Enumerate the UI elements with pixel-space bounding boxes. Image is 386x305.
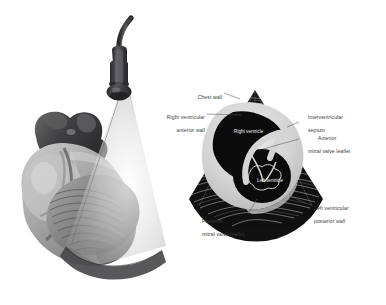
- label-left-ventricle: Left ventricle: [252, 173, 283, 189]
- echocardiography-figure: Chest wall Right ventricular anterior wa…: [0, 0, 386, 305]
- label-right-ventricle: Right ventricle: [229, 124, 263, 140]
- callout-posterior-mitral-valve-leaflet: Posterior mitral valve leaflet: [196, 212, 270, 243]
- callout-anterior-mitral-valve-leaflet: Anterior mitral valve leaflet: [302, 129, 376, 160]
- callout-left-ventricular-posterior-wall: Left ventricular posterior wall: [308, 199, 378, 230]
- callout-right-ventricular-anterior-wall: Right ventricular anterior wall: [143, 108, 205, 139]
- callout-chest-wall: Chest wall: [178, 88, 222, 107]
- leader-chest-wall: [224, 93, 240, 99]
